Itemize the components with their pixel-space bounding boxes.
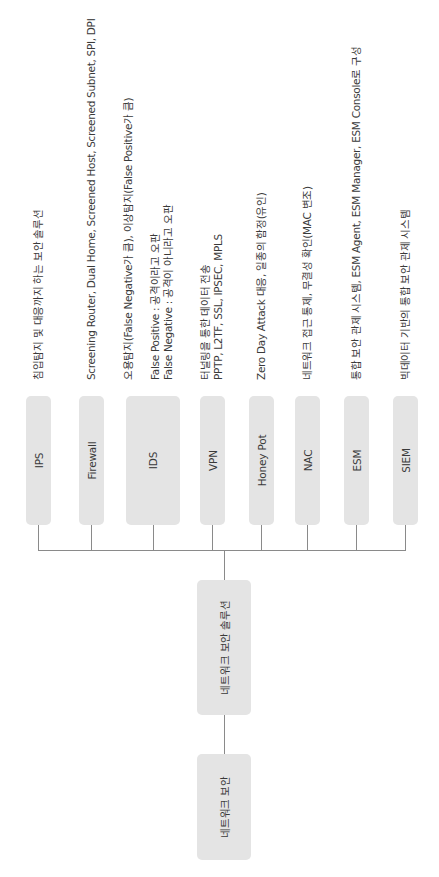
leaf-node-ids: IDS	[126, 396, 180, 525]
leaf-node-vpn: VPN	[200, 396, 225, 525]
middle-node-label: 네트워크 보안 솔루션	[217, 600, 232, 694]
connector-middle-to-bus	[224, 551, 225, 580]
leaf-node-ips: IPS	[26, 396, 51, 525]
root-node-network-security: 네트워크 보안	[197, 754, 251, 860]
stub-esm	[356, 525, 357, 551]
stub-ids	[153, 525, 154, 551]
leaf-node-esm: ESM	[344, 396, 369, 525]
stub-vpn	[212, 525, 213, 551]
desc-ids: 오용탐지(False Negative가 큼), 이상탐지(False Posi…	[122, 98, 175, 380]
desc-ips-line-1: 침입탐지 및 대응까지 하는 보안 솔루션	[32, 210, 45, 380]
desc-firewall: Screening Router, Dual Home, Screened Ho…	[85, 19, 98, 380]
leaf-label-firewall: Firewall	[86, 442, 98, 480]
desc-ids-line-3: False Positive : 공격이라고 오판	[149, 98, 162, 380]
stub-honeypot	[261, 525, 262, 551]
leaf-node-nac: NAC	[295, 396, 320, 525]
stub-nac	[307, 525, 308, 551]
desc-ids-line-2	[135, 98, 149, 380]
network-security-tree-diagram: 네트워크 보안 네트워크 보안 솔루션 IPS Firewall IDS VPN…	[0, 0, 439, 877]
desc-ids-line-1: 오용탐지(False Negative가 큼), 이상탐지(False Posi…	[122, 98, 135, 380]
desc-firewall-line-1: Screening Router, Dual Home, Screened Ho…	[85, 19, 98, 380]
desc-siem: 빅데이터 기반의 통합 보안 관제 시스템	[399, 210, 412, 380]
leaf-label-ips: IPS	[33, 453, 45, 469]
leaf-label-siem: SIEM	[400, 448, 412, 473]
leaf-label-nac: NAC	[302, 450, 314, 472]
root-node-label: 네트워크 보안	[217, 776, 232, 838]
leaf-label-esm: ESM	[351, 450, 363, 472]
connector-root-to-middle	[224, 715, 225, 754]
desc-esm-line-1: 통합 보안 관제 시스템, ESM Agent, ESM Manager, ES…	[350, 47, 363, 380]
desc-vpn-line-1: 터널링을 통한 데이터 전송	[199, 234, 212, 380]
leaf-node-siem: SIEM	[393, 396, 418, 525]
desc-siem-line-1: 빅데이터 기반의 통합 보안 관제 시스템	[399, 210, 412, 380]
leaf-node-honeypot: Honey Pot	[249, 396, 274, 525]
stub-ips	[38, 525, 39, 551]
leaf-node-firewall: Firewall	[79, 396, 104, 525]
desc-honeypot: Zero Day Attack 대응, 일종의 함정(유인)	[255, 192, 268, 380]
desc-nac: 네트워크 접근 통제, 무결성 확인(MAC 변조)	[301, 186, 314, 380]
branch-bus	[38, 550, 406, 551]
leaf-label-vpn: VPN	[207, 450, 219, 471]
leaf-label-ids: IDS	[147, 452, 159, 469]
leaf-label-honeypot: Honey Pot	[256, 435, 268, 487]
desc-nac-line-1: 네트워크 접근 통제, 무결성 확인(MAC 변조)	[301, 186, 314, 380]
desc-honeypot-line-1: Zero Day Attack 대응, 일종의 함정(유인)	[255, 192, 268, 380]
desc-ips: 침입탐지 및 대응까지 하는 보안 솔루션	[32, 210, 45, 380]
desc-ids-line-4: False Negative : 공격이 아니라고 오판	[162, 98, 175, 380]
stub-siem	[405, 525, 406, 551]
desc-vpn: 터널링을 통한 데이터 전송 PPTP, L2TF, SSL, IPSEC, M…	[199, 234, 225, 380]
desc-vpn-line-2: PPTP, L2TF, SSL, IPSEC, MPLS	[212, 234, 225, 380]
stub-firewall	[91, 525, 92, 551]
desc-esm: 통합 보안 관제 시스템, ESM Agent, ESM Manager, ES…	[350, 47, 363, 380]
middle-node-network-security-solutions: 네트워크 보안 솔루션	[197, 580, 251, 715]
